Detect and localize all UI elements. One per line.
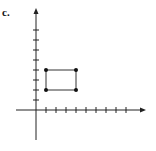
vertex-point	[74, 88, 78, 92]
coordinate-plane	[0, 0, 156, 151]
vertex-point	[44, 68, 48, 72]
rectangle-shape	[46, 70, 76, 90]
vertex-point	[74, 68, 78, 72]
y-axis-arrow-icon	[34, 8, 39, 14]
vertex-point	[44, 88, 48, 92]
x-axis-arrow-icon	[140, 108, 146, 113]
